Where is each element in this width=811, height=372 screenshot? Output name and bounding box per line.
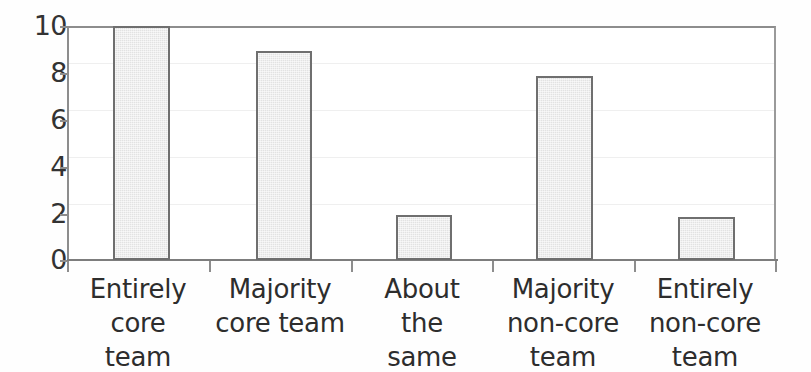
label-line: same (351, 340, 493, 372)
x-category-label-2: About the same (351, 272, 493, 372)
label-line: core team (207, 306, 353, 340)
label-line: core (67, 306, 209, 340)
x-category-label-0: Entirely core team (67, 272, 209, 372)
label-line: Majority (207, 272, 353, 306)
label-line: Entirely (633, 272, 777, 306)
bar-entirely-non-core-team[interactable] (678, 217, 735, 260)
x-category-label-3: Majority non-core team (490, 272, 636, 372)
x-category-label-4: Entirely non-core team (633, 272, 777, 372)
label-line: team (490, 340, 636, 372)
bar-chart: 10 8 6 4 2 0 Entirely core team (0, 0, 811, 372)
label-line: non-core (490, 306, 636, 340)
label-line: Majority (490, 272, 636, 306)
bar-about-the-same[interactable] (396, 215, 452, 260)
label-line: team (67, 340, 209, 372)
label-line: About (351, 272, 493, 306)
label-line: team (633, 340, 777, 372)
label-line: Entirely (67, 272, 209, 306)
x-category-label-1: Majority core team (207, 272, 353, 340)
bar-majority-core-team[interactable] (256, 51, 312, 260)
bar-majority-non-core-team[interactable] (536, 76, 593, 260)
bar-entirely-core-team[interactable] (113, 26, 170, 260)
label-line: non-core (633, 306, 777, 340)
label-line: the (351, 306, 493, 340)
